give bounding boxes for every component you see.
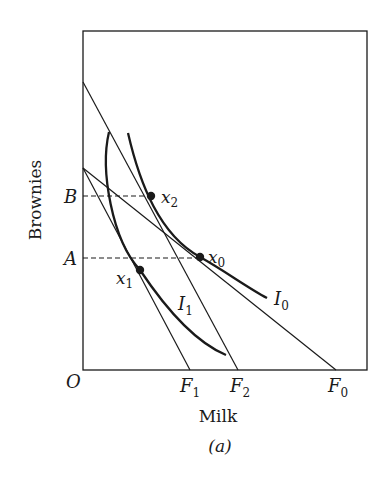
label-x2: x2	[161, 187, 178, 210]
point-x2	[147, 192, 155, 200]
point-x0	[196, 253, 204, 261]
label-x0: x0	[208, 247, 225, 270]
diagram-canvas: x2 x0 x1 I0 I1 B A O F1 F2 F0 Milk Brown…	[0, 0, 384, 481]
y-axis-title: Brownies	[25, 160, 45, 241]
label-f2: F2	[229, 375, 250, 400]
label-f1: F1	[179, 375, 200, 400]
label-x1: x1	[116, 268, 133, 291]
plot-frame	[83, 31, 367, 370]
y-marker-a: A	[62, 248, 77, 269]
y-marker-b: B	[63, 186, 77, 207]
figure-caption: (a)	[208, 436, 231, 456]
label-i1: I1	[177, 293, 193, 318]
budget-line-f2	[83, 82, 238, 370]
label-i0: I0	[273, 288, 289, 313]
point-x1	[136, 266, 144, 274]
origin-label: O	[66, 371, 81, 392]
label-f0: F0	[327, 375, 348, 400]
indifference-curve-i1	[106, 132, 226, 355]
indifference-curve-i0	[128, 133, 267, 298]
x-axis-title: Milk	[199, 406, 238, 426]
